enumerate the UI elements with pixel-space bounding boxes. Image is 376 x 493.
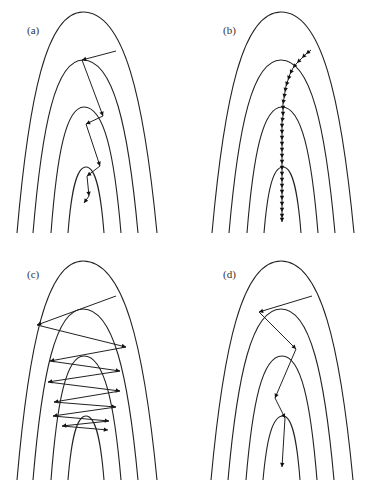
arrowhead-icon [280, 136, 284, 140]
diagram-canvas [0, 0, 376, 493]
panel-b [212, 12, 354, 233]
trajectory-segment [86, 124, 100, 166]
arrowhead-icon [280, 154, 284, 158]
arrowhead-icon [280, 178, 284, 182]
trajectory-segment [50, 361, 120, 371]
panel-label-a: (a) [27, 25, 39, 36]
arrowhead-icon [282, 99, 286, 104]
trajectory-segment [37, 296, 116, 325]
arrowhead-icon [280, 130, 284, 134]
arrowhead-icon [54, 399, 59, 403]
trajectory-segment [62, 426, 108, 430]
arrowhead-icon [280, 184, 284, 188]
trajectory-segment [50, 347, 126, 361]
arrowhead-icon [280, 218, 284, 222]
trajectory-segment [282, 418, 285, 467]
arrowhead-icon [281, 117, 285, 122]
arrowhead-icon [280, 202, 284, 206]
arrowhead-icon [284, 87, 288, 92]
contour-line [17, 12, 157, 233]
trajectory-segment [37, 325, 126, 347]
arrowhead-icon [104, 427, 108, 431]
trajectory-segment [62, 421, 109, 426]
arrowhead-icon [280, 124, 284, 128]
contour-line [17, 261, 157, 480]
figure: (a) (b) (c) (d) [0, 0, 376, 493]
panel-a [17, 12, 157, 233]
arrowhead-icon [281, 106, 285, 110]
arrowhead-icon [86, 192, 90, 196]
panel-label-b: (b) [223, 25, 236, 36]
contour-line [212, 12, 354, 233]
contour-line [211, 261, 353, 480]
arrowhead-icon [280, 208, 284, 212]
contour-line [51, 107, 121, 233]
trajectory-segment [54, 402, 116, 407]
arrowhead-icon [280, 172, 284, 176]
contour-line [33, 60, 138, 233]
arrowhead-icon [283, 93, 287, 98]
arrowhead-icon [280, 148, 284, 152]
arrowhead-icon [280, 196, 284, 200]
arrowhead-icon [281, 112, 285, 116]
arrowhead-icon [280, 190, 284, 194]
trajectory-segment [48, 371, 120, 382]
panel-label-d: (d) [223, 269, 236, 280]
trajectory-segment [53, 416, 109, 421]
trajectory-segment [82, 51, 116, 60]
arrowhead-icon [280, 214, 284, 218]
arrowhead-icon [280, 142, 284, 146]
contour-line [68, 416, 104, 480]
panel-label-c: (c) [27, 269, 39, 280]
contour-line [246, 356, 317, 480]
contour-line [33, 309, 138, 480]
trajectory-segment [53, 407, 116, 416]
arrowhead-icon [280, 160, 284, 164]
panel-c [17, 261, 157, 480]
trajectory-segment [259, 312, 296, 349]
arrowhead-icon [280, 463, 284, 467]
panel-d [211, 261, 353, 480]
contour-line [263, 416, 300, 480]
contour-line [51, 356, 121, 480]
trajectory-segment [48, 382, 120, 391]
arrowhead-icon [84, 198, 88, 203]
